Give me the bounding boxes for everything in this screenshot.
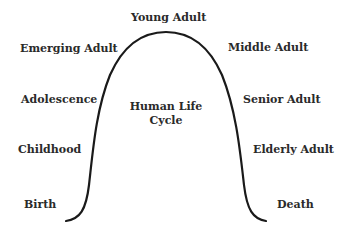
stage-adolescence: Adolescence [21, 93, 97, 106]
center-title: Human Life Cycle [121, 100, 211, 128]
stage-middle-adult: Middle Adult [228, 41, 308, 54]
stage-birth: Birth [24, 198, 56, 211]
life-cycle-diagram: Young Adult Emerging Adult Adolescence C… [0, 0, 341, 241]
stage-senior-adult: Senior Adult [243, 93, 321, 106]
stage-young-adult: Young Adult [131, 11, 206, 24]
stage-emerging-adult: Emerging Adult [20, 42, 118, 55]
stage-childhood: Childhood [18, 143, 81, 156]
center-title-line2: Cycle [121, 114, 211, 128]
stage-death: Death [277, 198, 314, 211]
stage-elderly-adult: Elderly Adult [253, 143, 334, 156]
center-title-line1: Human Life [121, 100, 211, 114]
